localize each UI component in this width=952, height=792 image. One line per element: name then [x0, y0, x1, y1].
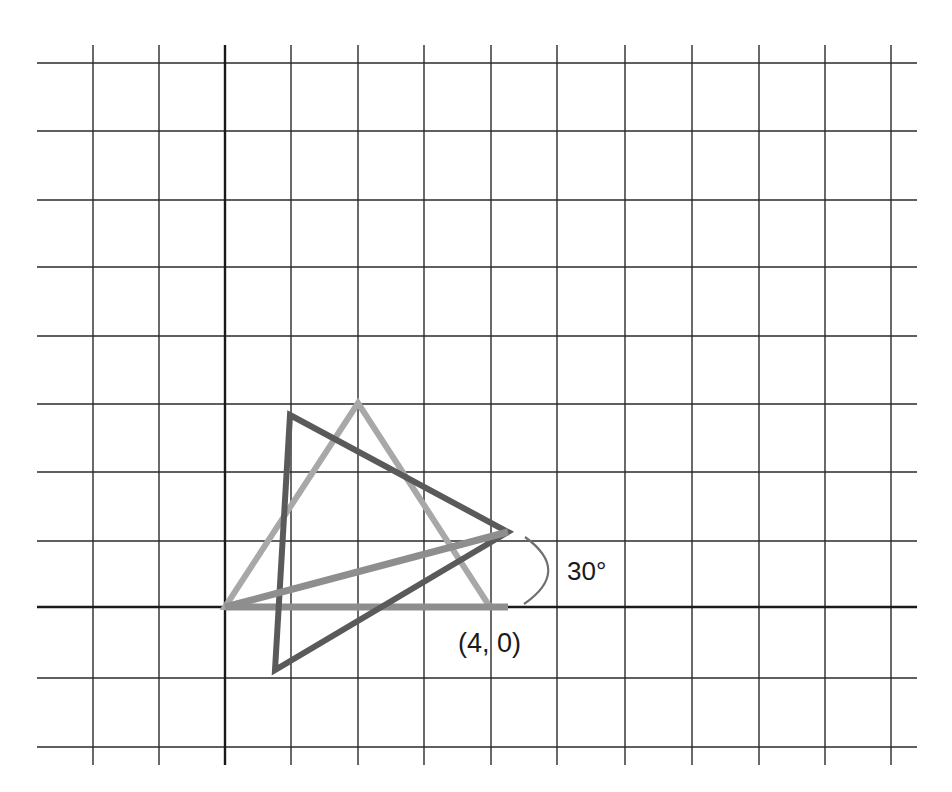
- angle-label: 30°: [567, 556, 606, 586]
- angle-arc: [524, 537, 548, 604]
- point-label: (4, 0): [458, 628, 521, 658]
- coordinate-grid-diagram: 30° (4, 0): [0, 0, 952, 792]
